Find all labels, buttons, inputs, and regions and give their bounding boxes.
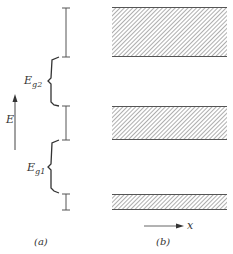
panel-b: x (b) [112, 7, 227, 247]
band-range-bottom [62, 194, 70, 210]
panel-a-caption: (a) [34, 236, 48, 247]
panel-a: Eg2 Eg1 E (a) [5, 8, 70, 247]
band-range-top [62, 8, 70, 57]
band-range-middle [62, 106, 70, 140]
energy-axis-label: E [5, 113, 14, 126]
band-top [112, 7, 227, 57]
gap-label-eg1: Eg1 [26, 161, 45, 176]
position-axis-arrow [144, 224, 184, 229]
panel-b-caption: (b) [156, 236, 170, 247]
gap-brace-eg1 [48, 140, 59, 193]
band-bottom [112, 194, 227, 210]
position-axis-label: x [187, 219, 194, 232]
gap-brace-eg2 [48, 57, 59, 106]
band-middle [112, 106, 227, 140]
gap-label-eg2: Eg2 [23, 74, 42, 89]
band-diagram: Eg2 Eg1 E (a) [0, 0, 233, 254]
